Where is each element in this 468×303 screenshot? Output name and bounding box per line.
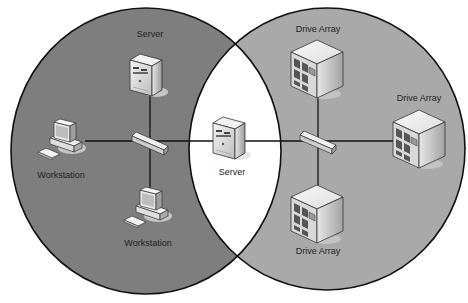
- label-workstation-bottom: Workstation: [124, 238, 171, 248]
- label-drive-array-right: Drive Array: [397, 93, 442, 103]
- label-workstation-left: Workstation: [37, 170, 84, 180]
- label-server-top: Server: [137, 29, 164, 39]
- label-drive-array-top: Drive Array: [296, 24, 341, 34]
- server-top-icon[interactable]: [130, 54, 168, 97]
- label-server-center: Server: [219, 167, 246, 177]
- venn-network-diagram: [0, 0, 468, 303]
- label-drive-array-bottom: Drive Array: [296, 246, 341, 256]
- server-center-icon[interactable]: [213, 117, 251, 160]
